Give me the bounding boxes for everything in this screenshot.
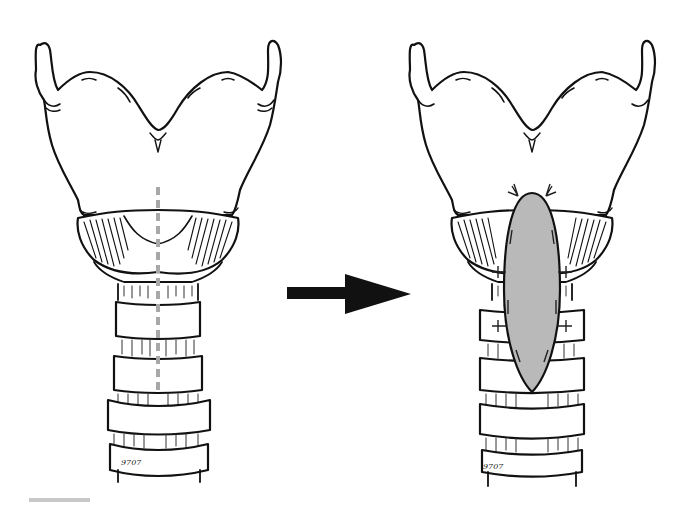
after-panel: Elliptical graft sutured into the anteri…: [384, 0, 684, 517]
artist-signature: 9707: [483, 462, 503, 471]
before-panel: Midline incision through cricoid and upp…: [0, 0, 300, 517]
larynx-before-illustration: [0, 0, 300, 517]
artist-signature: 9707: [121, 458, 141, 467]
larynx-after-illustration: [384, 0, 684, 517]
scale-bar: [29, 498, 90, 502]
